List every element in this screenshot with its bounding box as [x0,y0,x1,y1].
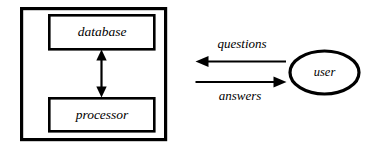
arrow-head-right-icon [274,77,287,88]
arrow-head-left-icon [196,56,209,67]
database-node-label: database [78,24,127,39]
system-diagram: database processor questions answers use… [0,0,380,155]
processor-node-label: processor [75,107,129,122]
answers-flow: answers [196,77,287,103]
answers-flow-label: answers [219,88,262,103]
questions-flow: questions [196,36,287,67]
diagram-canvas: database processor questions answers use… [0,0,380,155]
user-actor-label: user [314,65,336,79]
questions-flow-label: questions [217,36,266,51]
